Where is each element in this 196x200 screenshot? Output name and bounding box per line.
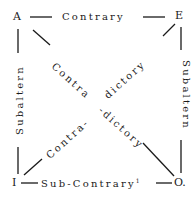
diagonal-i-e-start (24, 159, 42, 175)
footnote-marker: 1 (136, 177, 140, 184)
sub-contrary-text: Sub-Contrary (41, 178, 136, 189)
sub-contrary-label: Sub-Contrary1 (41, 178, 140, 189)
subaltern-right-label: Subaltern (181, 60, 191, 130)
corner-i: I (12, 177, 16, 188)
diagonal-i-e-end (163, 24, 175, 36)
diagram-lines (0, 0, 196, 200)
diagonal-a-o-start (33, 30, 50, 45)
square-of-opposition-diagram: A E I O. Contrary Sub-Contrary1 Subalter… (0, 0, 196, 200)
diagonal-a-o-end (143, 143, 174, 176)
corner-a: A (13, 11, 21, 22)
subaltern-left-label: Subaltern (15, 65, 25, 135)
corner-o: O. (174, 177, 186, 188)
corner-e: E (175, 10, 183, 21)
contrary-label: Contrary (62, 12, 125, 22)
